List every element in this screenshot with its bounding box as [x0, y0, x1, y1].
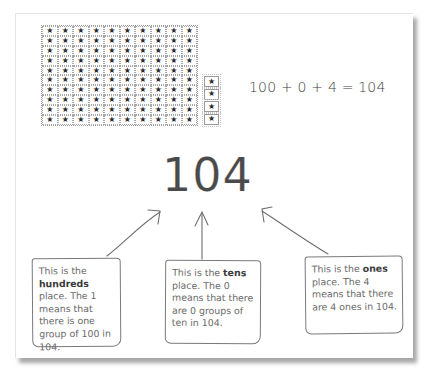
- note-ones-place: This is the ones place. The 4 means that…: [305, 255, 404, 334]
- arrow-to-hundreds: [107, 212, 160, 256]
- note-text: This is the: [312, 263, 363, 275]
- arrowhead-hundreds-icon: [148, 210, 160, 224]
- note-text: place. The 4 means that there are 4 ones…: [312, 275, 397, 312]
- keyword-hundreds: hundreds: [39, 278, 89, 289]
- note-text: place. The 0 means that there are 0 grou…: [172, 279, 253, 328]
- arrow-to-ones: [262, 211, 328, 254]
- note-text: place. The 1 means that there is one gro…: [39, 290, 111, 352]
- keyword-tens: tens: [223, 267, 246, 278]
- note-tens-place: This is the tens place. The 0 means that…: [165, 260, 261, 345]
- note-text: This is the: [39, 265, 87, 276]
- note-hundreds-place: This is the hundreds place. The 1 means …: [32, 258, 122, 348]
- note-text: This is the: [172, 267, 223, 278]
- keyword-ones: ones: [363, 263, 388, 274]
